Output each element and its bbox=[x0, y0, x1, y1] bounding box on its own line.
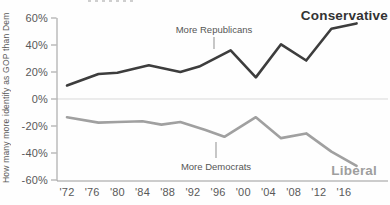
more-democrats-annotation: More Democrats bbox=[170, 161, 262, 172]
y-tick-label: -60% bbox=[8, 174, 48, 187]
y-tick-label: -20% bbox=[8, 120, 48, 133]
conservative-series-label: Conservative bbox=[301, 8, 388, 23]
more-republicans-annotation: More Republicans bbox=[166, 24, 262, 35]
liberal-series-label: Liberal bbox=[331, 163, 377, 178]
y-tick-label: 40% bbox=[8, 39, 48, 52]
x-tick-label: '16 bbox=[329, 186, 359, 198]
y-tick-label: 60% bbox=[8, 12, 48, 25]
y-tick-label: 20% bbox=[8, 66, 48, 79]
party-identification-chart: How many more identify as GOP than Dem 6… bbox=[0, 0, 390, 205]
y-tick-label: -40% bbox=[8, 147, 48, 160]
series-line-liberal bbox=[67, 117, 357, 166]
y-tick-label: 0% bbox=[8, 93, 48, 106]
